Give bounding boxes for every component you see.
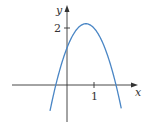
y-tick-label: 2 [54,22,61,35]
y-axis-label: y [55,4,63,17]
parabola-curve [50,24,121,111]
parabola-chart: 1 2 x y [0,0,145,128]
x-axis-label: x [135,86,142,99]
x-tick-label: 1 [91,90,98,103]
y-axis-arrow-icon [65,5,70,12]
